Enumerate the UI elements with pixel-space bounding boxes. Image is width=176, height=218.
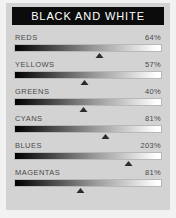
slider-track-wrapper[interactable] — [14, 125, 162, 133]
slider-track-wrapper[interactable] — [14, 44, 162, 52]
slider-row[interactable]: GREENS40% — [6, 84, 170, 111]
slider-track-wrapper[interactable] — [14, 152, 162, 160]
slider-row-header: BLUES203% — [14, 138, 162, 150]
slider-value[interactable]: 64% — [145, 33, 161, 42]
slider-value[interactable]: 40% — [145, 87, 161, 96]
slider-gradient-track[interactable] — [14, 179, 162, 187]
slider-thumb-icon[interactable] — [76, 188, 84, 193]
slider-gradient-track[interactable] — [14, 125, 162, 133]
slider-value[interactable]: 81% — [145, 168, 161, 177]
slider-row-header: REDS64% — [14, 30, 162, 42]
panel-header: BLACK AND WHITE — [12, 7, 164, 25]
slider-row[interactable]: YELLOWS57% — [6, 57, 170, 84]
slider-label: GREENS — [15, 87, 49, 96]
slider-label: YELLOWS — [15, 60, 54, 69]
slider-label: MAGENTAS — [15, 168, 60, 177]
slider-value[interactable]: 203% — [141, 141, 161, 150]
slider-value[interactable]: 57% — [145, 60, 161, 69]
slider-track-wrapper[interactable] — [14, 71, 162, 79]
slider-track-wrapper[interactable] — [14, 179, 162, 187]
slider-label: BLUES — [15, 141, 42, 150]
slider-row[interactable]: CYANS81% — [6, 111, 170, 138]
slider-gradient-track[interactable] — [14, 152, 162, 160]
slider-row[interactable]: MAGENTAS81% — [6, 165, 170, 192]
slider-gradient-track[interactable] — [14, 44, 162, 52]
slider-value[interactable]: 81% — [145, 114, 161, 123]
slider-row[interactable]: REDS64% — [6, 30, 170, 57]
slider-label: CYANS — [15, 114, 43, 123]
slider-row-header: CYANS81% — [14, 111, 162, 123]
slider-row[interactable]: BLUES203% — [6, 138, 170, 165]
slider-gradient-track[interactable] — [14, 98, 162, 106]
slider-gradient-track[interactable] — [14, 71, 162, 79]
slider-label: REDS — [15, 33, 38, 42]
black-and-white-panel: BLACK AND WHITE REDS64%YELLOWS57%GREENS4… — [6, 3, 170, 210]
slider-list: REDS64%YELLOWS57%GREENS40%CYANS81%BLUES2… — [6, 30, 170, 192]
panel-title: BLACK AND WHITE — [31, 10, 145, 22]
slider-row-header: YELLOWS57% — [14, 57, 162, 69]
slider-row-header: MAGENTAS81% — [14, 165, 162, 177]
slider-track-wrapper[interactable] — [14, 98, 162, 106]
slider-row-header: GREENS40% — [14, 84, 162, 96]
